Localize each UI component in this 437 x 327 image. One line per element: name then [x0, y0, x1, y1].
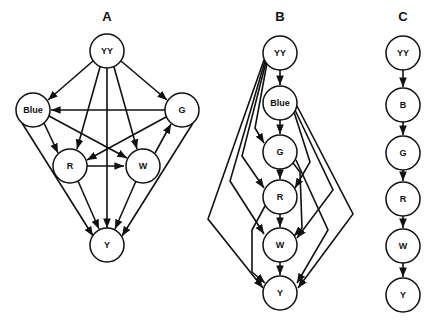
node-b-r: R	[263, 180, 297, 214]
node-a-w: W	[126, 149, 160, 183]
svg-text:W: W	[139, 161, 148, 171]
node-b-y: Y	[263, 276, 297, 310]
edge-a-blue-y	[22, 123, 93, 236]
svg-text:YY: YY	[397, 48, 409, 58]
diagram-canvas: A B C	[0, 0, 437, 327]
node-c-r: R	[386, 182, 420, 216]
svg-text:Y: Y	[400, 290, 406, 300]
node-b-g: G	[263, 135, 297, 169]
node-c-y: Y	[386, 278, 420, 312]
node-b-blue: Blue	[263, 86, 297, 120]
panel-label-a: A	[102, 9, 112, 24]
edge-a-yy-w	[114, 67, 137, 149]
node-b-yy: YY	[263, 36, 297, 70]
panel-a-edges	[22, 61, 193, 236]
node-c-b: B	[386, 88, 420, 122]
node-a-blue: Blue	[16, 93, 50, 127]
edge-a-r-y	[78, 181, 99, 229]
node-a-y: Y	[90, 228, 124, 262]
panel-label-b: B	[275, 9, 284, 24]
svg-text:Y: Y	[104, 240, 110, 250]
edge-a-yy-blue	[48, 61, 93, 100]
node-a-g: G	[165, 93, 199, 127]
svg-text:G: G	[399, 148, 406, 158]
panel-label-c: C	[398, 9, 408, 24]
svg-text:YY: YY	[274, 48, 286, 58]
node-c-w: W	[386, 229, 420, 263]
svg-text:G: G	[178, 105, 185, 115]
svg-text:YY: YY	[101, 46, 113, 56]
node-a-r: R	[53, 149, 87, 183]
node-a-yy: YY	[90, 34, 124, 68]
edge-a-w-g	[155, 124, 171, 153]
node-b-w: W	[263, 228, 297, 262]
svg-text:Y: Y	[277, 288, 283, 298]
svg-text:B: B	[400, 100, 407, 110]
svg-text:R: R	[277, 192, 284, 202]
node-c-g: G	[386, 136, 420, 170]
svg-text:G: G	[276, 147, 283, 157]
svg-text:Blue: Blue	[23, 105, 43, 115]
svg-text:W: W	[399, 241, 408, 251]
edge-a-w-y	[115, 181, 136, 229]
svg-text:Blue: Blue	[270, 98, 290, 108]
svg-text:R: R	[400, 194, 407, 204]
svg-text:W: W	[276, 240, 285, 250]
node-c-yy: YY	[386, 36, 420, 70]
edge-a-blue-r	[44, 123, 58, 153]
edge-a-yy-g	[121, 61, 167, 100]
svg-text:R: R	[67, 161, 74, 171]
